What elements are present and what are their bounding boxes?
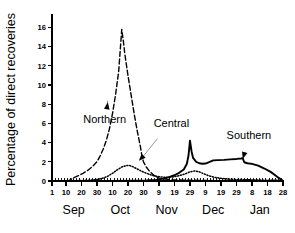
month-label-jan: Jan — [250, 203, 270, 217]
month-label-dec: Dec — [202, 203, 224, 217]
month-label-nov: Nov — [156, 203, 179, 217]
x-tick-label-9: 29 — [186, 188, 194, 197]
y-tick-label-0: 0 — [42, 177, 46, 186]
y-tick-label-2: 2 — [42, 158, 46, 167]
y-tick-label-12: 12 — [38, 62, 46, 71]
y-tick-label-8: 8 — [42, 100, 46, 109]
x-tick-label-3: 30 — [93, 188, 101, 197]
x-tick-label-6: 30 — [139, 188, 147, 197]
annotation-arrow-southern — [242, 151, 247, 159]
y-tick-label-14: 14 — [38, 42, 47, 51]
y-tick-label-10: 10 — [38, 81, 46, 90]
x-tick-label-8: 19 — [170, 188, 178, 197]
x-tick-label-15: 28 — [279, 188, 287, 197]
x-tick-label-10: 9 — [203, 188, 207, 197]
y-axis-title: Percentage of direct recoveries — [4, 13, 18, 186]
recoveries-line-chart: NorthernCentralSouthern 0246810121416110… — [0, 0, 295, 233]
x-tick-label-7: 9 — [157, 188, 161, 197]
chart-annotations: NorthernCentralSouthern — [83, 101, 271, 161]
x-tick-label-4: 10 — [108, 188, 116, 197]
chart-plot-area: NorthernCentralSouthern 0246810121416110… — [0, 0, 295, 233]
y-tick-label-16: 16 — [38, 23, 46, 32]
annotation-label-central: Central — [154, 117, 189, 129]
chart-axes — [48, 14, 283, 186]
x-tick-label-14: 18 — [263, 188, 271, 197]
annotation-leader-central — [144, 139, 158, 156]
chart-axis-labels: 0246810121416110203010203091929919298182… — [4, 13, 287, 217]
x-tick-label-11: 19 — [217, 188, 225, 197]
x-tick-label-2: 20 — [77, 188, 85, 197]
chart-series — [52, 29, 283, 181]
y-tick-label-6: 6 — [42, 119, 46, 128]
x-tick-label-1: 10 — [62, 188, 70, 197]
annotation-label-southern: Southern — [227, 129, 272, 141]
series-line-southern — [52, 141, 283, 181]
annotation-label-northern: Northern — [83, 113, 126, 125]
annotation-arrow-northern — [104, 102, 110, 109]
x-tick-label-13: 8 — [250, 188, 254, 197]
y-tick-label-4: 4 — [42, 138, 47, 147]
x-tick-label-5: 20 — [124, 188, 132, 197]
x-tick-label-0: 1 — [50, 188, 55, 197]
series-line-northern — [52, 29, 283, 181]
x-tick-label-12: 29 — [232, 188, 240, 197]
month-label-oct: Oct — [110, 203, 130, 217]
month-label-sep: Sep — [63, 203, 85, 217]
